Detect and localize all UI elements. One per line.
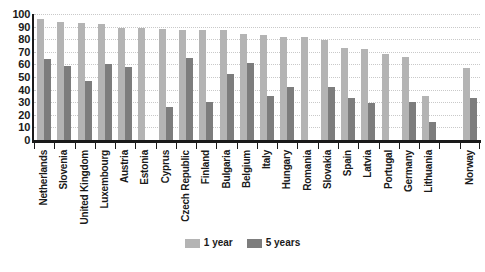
x-axis-label-austria: Austria — [120, 150, 130, 183]
x-axis-label-cell: Czech Republic — [176, 150, 196, 230]
x-axis-label-netherlands: Netherlands — [39, 150, 49, 206]
bar-1-year — [78, 23, 85, 140]
bar-1-year — [321, 40, 328, 140]
x-axis-label-cell — [439, 150, 459, 230]
x-axis-label-bulgaria: Bulgaria — [222, 150, 232, 188]
bar-group-cyprus — [156, 14, 176, 140]
bar-5-years — [368, 103, 375, 140]
legend-label-1-year: 1 year — [204, 238, 233, 248]
x-axis-tick — [439, 143, 459, 149]
bar-1-year — [118, 28, 125, 140]
bar-group-estonia — [135, 14, 155, 140]
x-axis-label-luxembourg: Luxembourg — [100, 150, 110, 209]
bar-group-spacer — [439, 14, 459, 140]
bar-5-years — [125, 67, 132, 140]
x-axis-label-cell: Slovenia — [54, 150, 74, 230]
y-axis-tick-100: 100 — [13, 9, 30, 20]
y-axis-tick-30: 30 — [18, 97, 30, 108]
y-axis-tick-60: 60 — [18, 59, 30, 70]
bar-5-years — [64, 66, 71, 140]
bar-5-years — [348, 98, 355, 140]
legend-label-5-years: 5 years — [266, 238, 300, 248]
x-axis-label-spain: Spain — [343, 150, 353, 176]
x-axis-tick — [156, 143, 176, 149]
y-axis-tick-90: 90 — [18, 21, 30, 32]
x-axis-label-norway: Norway — [465, 150, 475, 185]
bar-group-belgium — [237, 14, 257, 140]
x-axis-label-cell: United Kingdom — [75, 150, 95, 230]
x-axis-tick — [399, 143, 419, 149]
x-axis-label-cell: Hungary — [277, 150, 297, 230]
bar-group-lithuania — [419, 14, 439, 140]
x-axis-tick — [379, 143, 399, 149]
x-axis-label-cell: Lithuania — [419, 150, 439, 230]
x-axis-label-cell: Finland — [196, 150, 216, 230]
legend-item-5-years[interactable]: 5 years — [247, 238, 300, 248]
x-axis-label-germany: Germany — [404, 150, 414, 192]
bar-1-year — [280, 37, 287, 140]
x-axis-label-cell: Netherlands — [34, 150, 54, 230]
bar-group-united-kingdom — [75, 14, 95, 140]
bar-1-year — [402, 57, 409, 140]
bar-group-finland — [196, 14, 216, 140]
bar-1-year — [179, 30, 186, 140]
bar-group-germany — [399, 14, 419, 140]
x-axis-label-italy: Italy — [262, 150, 272, 169]
bar-group-austria — [115, 14, 135, 140]
y-axis-tick-10: 10 — [18, 122, 30, 133]
bar-group-latvia — [358, 14, 378, 140]
x-axis-tick — [95, 143, 115, 149]
bar-5-years — [470, 98, 477, 140]
x-axis-tick — [358, 143, 378, 149]
x-axis-label-romania: Romania — [303, 150, 313, 191]
bar-5-years — [267, 96, 274, 140]
bar-group-romania — [297, 14, 317, 140]
x-axis-tick — [338, 143, 358, 149]
x-axis-tick — [54, 143, 74, 149]
bar-5-years — [287, 87, 294, 140]
bar-1-year — [382, 54, 389, 140]
x-axis-tick — [75, 143, 95, 149]
x-axis-label-cell: Italy — [257, 150, 277, 230]
x-axis-label-cell: Austria — [115, 150, 135, 230]
bar-5-years — [85, 81, 92, 140]
x-axis-tick — [318, 143, 338, 149]
x-axis-label-cell: Belgium — [237, 150, 257, 230]
x-axis-tick — [34, 143, 54, 149]
x-axis-tick — [277, 143, 297, 149]
x-axis-label-cyprus: Cyprus — [161, 150, 171, 183]
bar-group-norway — [460, 14, 480, 140]
x-axis-tick — [115, 143, 135, 149]
bar-1-year — [138, 28, 145, 140]
bar-5-years — [409, 102, 416, 140]
x-axis-label-finland: Finland — [201, 150, 211, 184]
bar-group-italy — [257, 14, 277, 140]
bar-5-years — [328, 87, 335, 140]
bar-1-year — [220, 30, 227, 140]
x-axis-tick — [257, 143, 277, 149]
x-axis-tick — [196, 143, 216, 149]
legend-item-1-year[interactable]: 1 year — [185, 238, 233, 248]
x-axis-label-slovakia: Slovakia — [323, 150, 333, 189]
x-axis-tick — [419, 143, 439, 149]
x-axis-tick — [297, 143, 317, 149]
bar-5-years — [105, 64, 112, 140]
legend-swatch-5-years — [247, 239, 262, 248]
x-axis-label-cell: Romania — [297, 150, 317, 230]
bar-group-czech-republic — [176, 14, 196, 140]
x-axis-label-belgium: Belgium — [242, 150, 252, 188]
x-axis-label-cell: Norway — [460, 150, 480, 230]
y-axis-tick-20: 20 — [18, 109, 30, 120]
x-axis-label-united-kingdom: United Kingdom — [80, 150, 90, 224]
y-axis-tick-0: 0 — [24, 135, 30, 146]
bar-1-year — [98, 24, 105, 140]
bar-group-slovenia — [54, 14, 74, 140]
x-axis-label-estonia: Estonia — [140, 150, 150, 185]
bar-group-bulgaria — [216, 14, 236, 140]
x-axis-ticks — [34, 143, 480, 149]
x-axis-label-lithuania: Lithuania — [424, 150, 434, 193]
chart-legend: 1 year5 years — [0, 238, 485, 248]
bar-1-year — [341, 48, 348, 140]
bar-group-slovakia — [318, 14, 338, 140]
bar-5-years — [227, 74, 234, 140]
